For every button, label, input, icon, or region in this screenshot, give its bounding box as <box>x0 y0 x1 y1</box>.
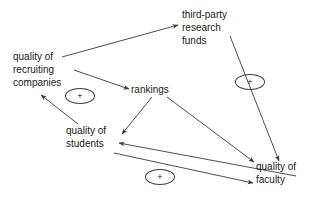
edge-quality-of-students-to-quality-of-faculty <box>114 153 253 183</box>
edge-recruiting-companies-to-research-funds <box>62 25 178 57</box>
polarity-marker-students-faculty: + <box>145 169 175 185</box>
node-quality-of-faculty: quality of faculty <box>256 160 296 186</box>
polarity-marker-recruiting-students: + <box>65 88 95 104</box>
edge-research-funds-to-quality-of-faculty <box>230 36 279 161</box>
edge-rankings-to-quality-of-students <box>122 97 152 134</box>
node-quality-of-students: quality of students <box>66 124 106 150</box>
edge-recruiting-companies-to-rankings <box>74 70 129 89</box>
edge-rankings-to-quality-of-faculty <box>167 97 254 162</box>
node-third-party-research-funds: third-party research funds <box>182 8 227 47</box>
node-quality-of-recruiting-companies: quality of recruiting companies <box>13 50 61 89</box>
polarity-marker-research-funds-faculty: + <box>235 74 265 90</box>
node-rankings: rankings <box>131 83 169 96</box>
causal-loop-diagram: quality of recruiting companies third-pa… <box>0 0 311 199</box>
